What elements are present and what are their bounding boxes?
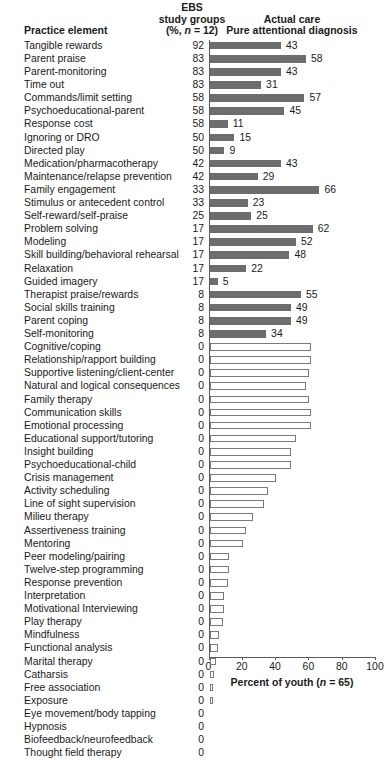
bar-actual-care [210,265,247,273]
chart-row: Parent praise8358 [0,52,383,65]
chart-row: Cognitive/coping0 [0,341,383,354]
bar-value-label: 58 [311,53,323,65]
bar-value-label: 34 [271,328,283,340]
row-value-ebs-percent: 0 [160,603,204,615]
row-label-practice-element: Response cost [24,118,93,130]
bar-value-label: 5 [223,276,229,288]
row-value-ebs-percent: 0 [160,341,204,353]
row-label-practice-element: Crisis management [24,472,114,484]
bar-actual-care [210,396,310,404]
bar-actual-care [210,540,243,548]
chart-row: Response prevention0 [0,576,383,589]
ebs-n-prefix: (%, [166,24,185,36]
chart-row: Psychoeducational-parent5845 [0,105,383,118]
row-label-practice-element: Directed play [24,145,85,157]
row-label-practice-element: Line of sight supervision [24,498,135,510]
chart-row: Commands/limit setting5857 [0,92,383,105]
row-label-practice-element: Tangible rewards [24,40,103,52]
chart-row: Natural and logical consequences0 [0,380,383,393]
chart-row: Thought field therapy0 [0,747,383,760]
bar-actual-care [210,644,218,652]
row-label-practice-element: Relaxation [24,263,73,275]
bar-actual-care [210,186,320,194]
bar-actual-care [210,81,262,89]
row-label-practice-element: Modeling [24,236,66,248]
chart-row: Biofeedback/neurofeedback0 [0,734,383,747]
chart-row: Insight building0 [0,445,383,458]
row-value-ebs-percent: 8 [160,289,204,301]
bar-actual-care [210,68,282,76]
chart-row: Emotional processing0 [0,419,383,432]
row-value-ebs-percent: 0 [160,708,204,720]
bar-actual-care [210,697,213,705]
row-value-ebs-percent: 83 [160,79,204,91]
bar-actual-care [210,55,307,63]
row-value-ebs-percent: 0 [160,642,204,654]
row-value-ebs-percent: 58 [160,118,204,130]
bar-actual-care [210,618,223,626]
bar-actual-care [210,409,312,417]
row-label-practice-element: Peer modeling/pairing [24,551,125,563]
chart-row: Functional analysis0 [0,642,383,655]
bar-value-label: 43 [286,40,298,52]
row-label-practice-element: Emotional processing [24,420,123,432]
row-value-ebs-percent: 0 [160,629,204,641]
bar-actual-care [210,291,302,299]
row-value-ebs-percent: 8 [160,328,204,340]
chart-row: Exposure0 [0,694,383,707]
bar-actual-care [210,579,228,587]
bar-value-label: 25 [256,210,268,222]
row-value-ebs-percent: 0 [160,721,204,733]
chart-row: Family engagement3366 [0,183,383,196]
bar-value-label: 49 [296,302,308,314]
row-value-ebs-percent: 0 [160,564,204,576]
row-value-ebs-percent: 0 [160,380,204,392]
row-value-ebs-percent: 0 [160,538,204,550]
chart-row: Skill building/behavioral rehearsal1748 [0,249,383,262]
bar-value-label: 15 [239,132,251,144]
bar-actual-care [210,173,258,181]
bar-actual-care [210,448,292,456]
bar-value-label: 48 [294,249,306,261]
row-value-ebs-percent: 0 [160,616,204,628]
row-label-practice-element: Educational support/tutoring [24,433,153,445]
chart-row: Crisis management0 [0,472,383,485]
chart-row: Free association0 [0,681,383,694]
bar-actual-care [210,500,265,508]
row-value-ebs-percent: 0 [160,656,204,668]
row-value-ebs-percent: 17 [160,223,204,235]
bar-actual-care [210,304,292,312]
chart-row: Self-monitoring834 [0,328,383,341]
chart-row: Mentoring0 [0,537,383,550]
row-label-practice-element: Medication/pharmacotherapy [24,158,158,170]
chart-row: Catharsis0 [0,668,383,681]
row-label-practice-element: Assertiveness training [24,525,126,537]
row-value-ebs-percent: 0 [160,394,204,406]
chart-row: Guided imagery175 [0,275,383,288]
row-label-practice-element: Thought field therapy [24,747,122,759]
row-label-practice-element: Ignoring or DRO [24,132,100,144]
chart-row: Parent-monitoring8343 [0,66,383,79]
row-value-ebs-percent: 0 [160,577,204,589]
row-label-practice-element: Self-reward/self-praise [24,210,128,222]
row-value-ebs-percent: 58 [160,105,204,117]
row-value-ebs-percent: 92 [160,40,204,52]
chart-row: Play therapy0 [0,616,383,629]
bar-actual-care [210,356,312,364]
chart-row: Maintenance/relapse prevention4229 [0,170,383,183]
row-value-ebs-percent: 33 [160,197,204,209]
row-label-practice-element: Supportive listening/client-center [24,367,174,379]
chart-row: Psychoeducational-child0 [0,459,383,472]
chart-row: Interpretation0 [0,590,383,603]
chart-row: Eye movement/body tapping0 [0,707,383,720]
row-label-practice-element: Parent coping [24,315,88,327]
bar-value-label: 29 [263,171,275,183]
bar-actual-care [210,107,285,115]
bar-actual-care [210,658,217,666]
bar-actual-care [210,251,290,259]
chart-row: Stimulus or antecedent control3323 [0,197,383,210]
row-value-ebs-percent: 8 [160,302,204,314]
bar-actual-care [210,527,247,535]
row-value-ebs-percent: 0 [160,525,204,537]
bar-value-label: 45 [289,105,301,117]
